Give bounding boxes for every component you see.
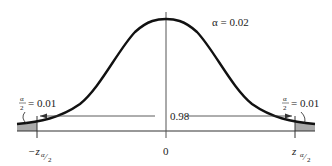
svg-text:2: 2	[48, 156, 52, 164]
svg-text:= 0.01: = 0.01	[28, 97, 56, 109]
middle-area-label: 0.98	[170, 110, 190, 122]
svg-text:α: α	[20, 95, 24, 103]
center-label: 0	[163, 145, 169, 157]
svg-text:z: z	[291, 145, 297, 157]
svg-text:= 0.01: = 0.01	[291, 97, 319, 109]
svg-text:2: 2	[307, 156, 311, 164]
alpha-label: α = 0.02	[212, 16, 249, 28]
left-critical-label: −z α ⁄ 2	[28, 145, 52, 164]
right-critical-label: z α ⁄ 2	[291, 145, 311, 164]
svg-text:2: 2	[20, 104, 24, 112]
left-tail-label: α 2 = 0.01	[19, 95, 56, 124]
svg-text:α: α	[283, 95, 287, 103]
normal-distribution-diagram: 0.98 α = 0.02 α 2 = 0.01 α 2 = 0.01 −z α…	[0, 0, 332, 166]
svg-text:−z: −z	[28, 145, 40, 157]
svg-text:2: 2	[283, 104, 287, 112]
